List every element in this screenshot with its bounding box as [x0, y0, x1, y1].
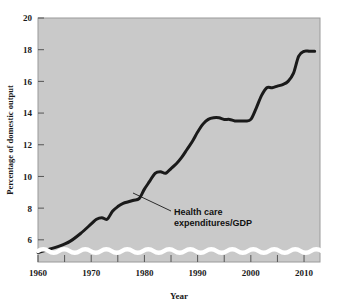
- x-tick-label: 1990: [189, 268, 208, 278]
- y-tick-label: 8: [28, 204, 33, 214]
- chart-figure: 68101214161820 196019701980199020002010 …: [0, 0, 338, 304]
- y-tick-label: 14: [23, 108, 33, 118]
- y-tick-label: 10: [23, 172, 33, 182]
- x-tick-label: 1980: [135, 268, 154, 278]
- health-care-gdp-line-chart: 68101214161820 196019701980199020002010 …: [0, 0, 338, 304]
- x-tick-label: 2000: [242, 268, 261, 278]
- y-tick-label: 12: [23, 140, 33, 150]
- x-axis-title: Year: [170, 291, 188, 301]
- y-tick-label: 18: [23, 45, 33, 55]
- y-tick-label: 20: [23, 13, 33, 23]
- y-axis-title: Percentage of domestic output: [5, 85, 15, 195]
- axis-break-wave: [38, 249, 332, 253]
- y-tick-label: 16: [23, 77, 33, 87]
- annotation-label-line1: Health care: [174, 207, 223, 217]
- annotation-label-line2: expenditures/GDP: [174, 218, 252, 228]
- y-tick-label: 6: [28, 235, 33, 245]
- x-tick-label: 2010: [295, 268, 314, 278]
- x-tick-label: 1970: [82, 268, 101, 278]
- x-tick-label: 1960: [29, 268, 48, 278]
